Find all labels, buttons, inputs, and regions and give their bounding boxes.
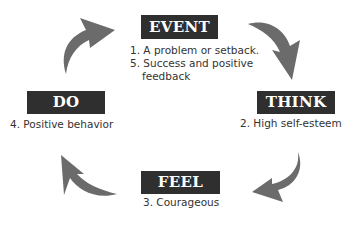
curved-arrow-icon [252, 152, 300, 202]
stage-feel-text: 3. Courageous [143, 196, 219, 209]
stage-event-line-2: 5. Success and positive [130, 57, 259, 70]
stage-do-title: DO [53, 93, 80, 111]
stage-event-line-3: feedback [130, 70, 259, 83]
stage-do-box: DO [27, 91, 105, 114]
stage-do-text: 4. Positive behavior [10, 118, 113, 131]
stage-event-box: EVENT [141, 15, 218, 39]
stage-feel-title: FEEL [158, 173, 203, 191]
stage-think-line-1: 2. High self-esteem [240, 117, 342, 130]
stage-do-line-1: 4. Positive behavior [10, 118, 113, 131]
stage-feel-line-1: 3. Courageous [143, 196, 219, 209]
stage-feel-box: FEEL [141, 171, 220, 194]
curved-arrow-icon [64, 18, 115, 74]
stage-event-title: EVENT [149, 18, 210, 36]
stage-think-text: 2. High self-esteem [240, 117, 342, 130]
stage-event-text: 1. A problem or setback. 5. Success and … [130, 44, 259, 83]
stage-event-line-1: 1. A problem or setback. [130, 44, 259, 57]
curved-arrow-icon [61, 155, 117, 196]
stage-think-title: THINK [266, 93, 327, 111]
stage-think-box: THINK [257, 91, 335, 114]
